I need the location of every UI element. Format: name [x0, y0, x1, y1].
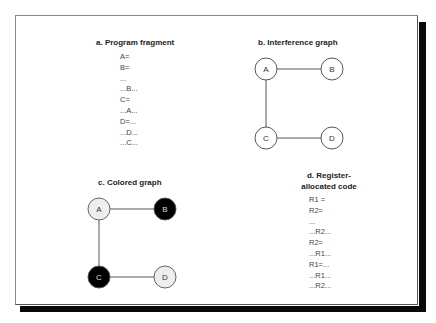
node-c-label: C [263, 134, 269, 143]
node-d-label: D [329, 134, 335, 143]
graphs-canvas: A B C D A B C D [0, 0, 436, 323]
node-d-label: D [162, 273, 168, 282]
node-c-label: C [96, 273, 102, 282]
colored-graph [99, 209, 154, 277]
node-a-label: A [96, 205, 102, 214]
node-b-label: B [162, 205, 167, 214]
interference-graph [266, 69, 321, 138]
node-a-label: A [263, 65, 269, 74]
node-b-label: B [329, 65, 334, 74]
